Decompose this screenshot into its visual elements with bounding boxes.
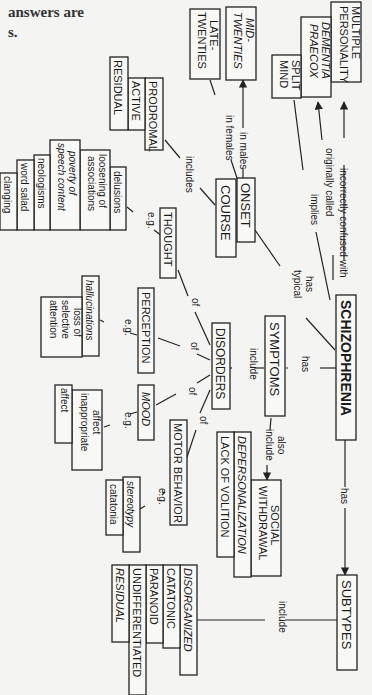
svg-text:loss of: loss of xyxy=(72,308,83,337)
node-mid-twenties: MID- TWENTIES xyxy=(226,7,256,80)
svg-text:MIND: MIND xyxy=(278,60,290,88)
svg-text:hallucinations: hallucinations xyxy=(84,280,95,341)
svg-text:SYMPTOMS: SYMPTOMS xyxy=(267,322,282,396)
svg-text:PARANOID: PARANOID xyxy=(148,568,160,625)
svg-text:TWENTIES: TWENTIES xyxy=(232,12,244,69)
svg-text:THOUGHT: THOUGHT xyxy=(162,212,174,267)
svg-text:DISORDERS: DISORDERS xyxy=(213,328,227,399)
svg-text:selective: selective xyxy=(60,300,71,339)
node-symptoms: SYMPTOMS xyxy=(265,316,285,416)
svg-text:COURSE: COURSE xyxy=(218,185,233,241)
svg-text:of: of xyxy=(189,342,200,351)
svg-text:ONSET: ONSET xyxy=(238,183,253,228)
svg-text:RESIDUAL: RESIDUAL xyxy=(112,60,124,115)
svg-text:WITHDRAWAL: WITHDRAWAL xyxy=(257,486,269,560)
node-subtypes: SUBTYPES xyxy=(337,575,357,670)
node-motor-examples: stereotypy catatonia xyxy=(106,477,140,552)
svg-text:include: include xyxy=(277,601,288,633)
node-onset: ONSET xyxy=(237,178,255,242)
node-thought-examples: delusions loosening of associations pove… xyxy=(0,140,126,230)
svg-text:include: include xyxy=(264,429,275,461)
svg-text:affect: affect xyxy=(59,388,70,412)
svg-text:PERCEPTION: PERCEPTION xyxy=(140,292,152,364)
svg-text:MULTIPLE: MULTIPLE xyxy=(350,6,362,59)
svg-text:has: has xyxy=(339,488,350,504)
svg-text:MID-: MID- xyxy=(244,18,256,42)
node-schizophrenia: SCHIZOPHRENIA xyxy=(336,295,356,440)
svg-text:MOOD: MOOD xyxy=(140,392,152,426)
svg-text:e.g.: e.g. xyxy=(157,488,168,505)
node-multiple-personality: MULTIPLE PERSONALITY xyxy=(331,2,362,84)
svg-text:PRODROMAL: PRODROMAL xyxy=(147,81,159,152)
svg-text:has: has xyxy=(304,276,315,292)
svg-text:originally called: originally called xyxy=(324,148,335,216)
svg-text:of: of xyxy=(187,387,198,396)
node-split-mind: SPLIT MIND xyxy=(272,55,302,98)
svg-text:incorrectly confused with: incorrectly confused with xyxy=(338,168,349,278)
svg-text:catatonia: catatonia xyxy=(108,484,119,525)
svg-text:RESIDUAL: RESIDUAL xyxy=(114,568,126,623)
svg-text:affect: affect xyxy=(91,410,102,434)
node-course-phases: PRODROMAL ACTIVE RESIDUAL xyxy=(110,57,163,152)
svg-text:also: also xyxy=(276,436,287,455)
svg-text:include: include xyxy=(248,348,259,380)
svg-text:clanging: clanging xyxy=(2,176,13,213)
node-motor-behavior: MOTOR BEHAVIOR xyxy=(170,420,187,525)
node-mood: MOOD xyxy=(138,385,154,440)
svg-text:in females: in females xyxy=(224,115,235,161)
node-dementia-praecox: DEMENTIA PRAECOX xyxy=(301,17,332,97)
svg-text:SUBTYPES: SUBTYPES xyxy=(339,580,354,650)
svg-text:speech content: speech content xyxy=(56,143,67,212)
svg-text:DISORGANIZED: DISORGANIZED xyxy=(182,568,194,652)
schizophrenia-concept-map: MULTIPLE PERSONALITY DEMENTIA PRAECOX SP… xyxy=(0,0,372,695)
svg-text:LACK OF VOLITION: LACK OF VOLITION xyxy=(219,436,231,538)
svg-text:inappropriate: inappropriate xyxy=(79,393,90,452)
svg-text:SPLIT: SPLIT xyxy=(290,60,302,91)
svg-text:e.g.: e.g. xyxy=(123,412,134,429)
svg-text:SCHIZOPHRENIA: SCHIZOPHRENIA xyxy=(338,300,354,416)
svg-text:implies: implies xyxy=(309,194,320,225)
svg-text:attention: attention xyxy=(48,300,59,338)
node-perception-examples: hallucinations loss of selective attenti… xyxy=(41,276,99,357)
node-course: COURSE xyxy=(216,179,236,257)
svg-text:poverty of: poverty of xyxy=(67,150,78,196)
svg-text:of: of xyxy=(198,416,209,425)
node-mood-examples: affect inappropriate affect xyxy=(55,385,102,470)
svg-text:DEMENTIA: DEMENTIA xyxy=(320,22,332,79)
svg-text:has: has xyxy=(300,356,311,372)
svg-text:UNDIFFERENTIATED: UNDIFFERENTIATED xyxy=(131,568,143,677)
node-perception: PERCEPTION xyxy=(138,288,154,373)
svg-text:LATE-: LATE- xyxy=(208,20,220,51)
svg-text:delusions: delusions xyxy=(112,171,123,213)
svg-text:PERSONALITY: PERSONALITY xyxy=(338,6,350,84)
svg-text:of: of xyxy=(190,298,201,307)
svg-text:MOTOR BEHAVIOR: MOTOR BEHAVIOR xyxy=(172,423,184,523)
svg-text:DEPERSONALIZATION: DEPERSONALIZATION xyxy=(236,436,248,554)
node-disorders: DISORDERS xyxy=(212,323,230,409)
svg-text:e.g.: e.g. xyxy=(146,212,157,229)
node-subtype-list: DISORGANIZED CATATONIC PARANOID UNDIFFER… xyxy=(112,565,197,695)
svg-text:ACTIVE: ACTIVE xyxy=(130,81,142,121)
svg-text:neologisms: neologisms xyxy=(36,158,47,209)
node-late-twenties: LATE- TWENTIES xyxy=(190,9,220,79)
svg-text:loosening of: loosening of xyxy=(97,154,108,208)
svg-text:typical: typical xyxy=(292,270,303,298)
svg-text:includes: includes xyxy=(184,156,195,193)
svg-text:associations: associations xyxy=(86,156,97,211)
svg-text:stereotypy: stereotypy xyxy=(125,481,136,528)
svg-text:CATATONIC: CATATONIC xyxy=(165,568,177,629)
svg-text:in males: in males xyxy=(238,132,249,169)
svg-text:SOCIAL: SOCIAL xyxy=(269,505,281,545)
svg-text:TWENTIES: TWENTIES xyxy=(196,12,208,69)
svg-text:PRAECOX: PRAECOX xyxy=(308,24,320,78)
svg-text:e.g.: e.g. xyxy=(123,319,134,336)
node-thought: THOUGHT xyxy=(160,208,176,278)
svg-text:word salad: word salad xyxy=(19,162,30,211)
